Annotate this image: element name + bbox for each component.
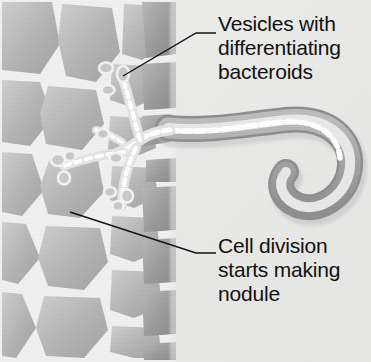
leader-line-vesicles: [123, 33, 216, 76]
label-vesicles-line2: differentiating: [218, 36, 341, 60]
label-nodule-line1: Cell division: [218, 234, 340, 258]
label-vesicles-line3: bacteroids: [218, 60, 341, 84]
label-vesicles: Vesicles with differentiating bacteroids: [218, 12, 341, 84]
label-nodule-line3: nodule: [218, 282, 340, 306]
label-vesicles-line1: Vesicles with: [218, 12, 341, 36]
leader-line-nodule: [70, 212, 216, 253]
label-nodule: Cell division starts making nodule: [218, 234, 340, 306]
label-nodule-line2: starts making: [218, 258, 340, 282]
nodule-formation-diagram: Vesicles with differentiating bacteroids…: [0, 0, 371, 362]
